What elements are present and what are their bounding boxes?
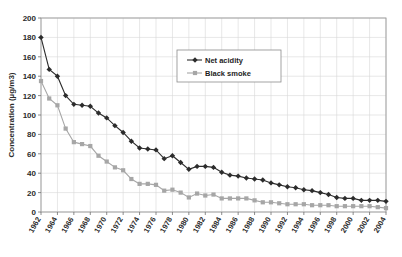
data-point xyxy=(220,196,224,200)
data-point xyxy=(179,191,183,195)
y-tick-label: 200 xyxy=(23,14,37,23)
data-point xyxy=(39,79,43,83)
data-point xyxy=(285,184,290,189)
legend-marker xyxy=(193,71,197,75)
data-point xyxy=(105,159,109,163)
data-point xyxy=(326,203,330,207)
data-point xyxy=(302,202,306,206)
y-tick-label: 180 xyxy=(23,33,37,42)
data-point xyxy=(146,182,150,186)
data-point xyxy=(96,154,100,158)
data-point xyxy=(384,206,388,210)
data-point xyxy=(268,180,273,185)
data-point xyxy=(162,189,166,193)
data-point xyxy=(343,204,347,208)
data-point xyxy=(235,173,240,178)
x-tick-label: 1984 xyxy=(207,215,224,235)
data-point xyxy=(211,192,215,196)
data-point xyxy=(203,164,208,169)
y-tick-label: 140 xyxy=(23,72,37,81)
x-tick-label: 1996 xyxy=(306,216,322,235)
data-point xyxy=(367,198,372,203)
x-tick-label: 2004 xyxy=(372,215,389,235)
legend: Net acidityBlack smoke xyxy=(177,50,281,82)
data-point xyxy=(310,203,314,207)
y-tick-label: 120 xyxy=(23,92,37,101)
gridlines xyxy=(41,18,386,212)
data-point xyxy=(38,35,43,40)
x-tick-label: 1974 xyxy=(125,215,142,235)
x-tick-label: 1970 xyxy=(92,216,108,235)
data-point xyxy=(137,182,141,186)
y-axis-ticks: 020406080100120140160180200 xyxy=(23,14,41,217)
line-chart: 0204060801001201401601802001962196419661… xyxy=(0,0,402,257)
x-tick-label: 1976 xyxy=(142,216,158,235)
x-tick-label: 1988 xyxy=(240,215,256,234)
data-point xyxy=(351,204,355,208)
data-point xyxy=(244,196,248,200)
x-tick-label: 1964 xyxy=(43,215,60,235)
x-tick-label: 1998 xyxy=(322,216,338,235)
data-point xyxy=(252,176,257,181)
data-point xyxy=(318,203,322,207)
data-point xyxy=(80,142,84,146)
y-tick-label: 100 xyxy=(23,111,37,120)
x-tick-label: 1986 xyxy=(224,216,240,235)
data-point xyxy=(342,196,347,201)
data-point xyxy=(55,103,59,107)
y-tick-label: 40 xyxy=(27,169,36,178)
y-tick-label: 60 xyxy=(27,150,36,159)
x-tick-label: 2000 xyxy=(339,216,355,235)
y-tick-label: 20 xyxy=(27,189,36,198)
x-tick-label: 2002 xyxy=(355,216,371,235)
series-line xyxy=(41,81,386,208)
x-tick-label: 1962 xyxy=(27,216,43,235)
data-point xyxy=(219,170,224,175)
data-point xyxy=(376,205,380,209)
data-point xyxy=(72,140,76,144)
data-point xyxy=(350,196,355,201)
data-point xyxy=(285,202,289,206)
data-point xyxy=(359,204,363,208)
data-point xyxy=(145,146,150,151)
data-point xyxy=(294,202,298,206)
data-point xyxy=(277,201,281,205)
data-point xyxy=(79,103,84,108)
data-point xyxy=(195,191,199,195)
y-tick-label: 80 xyxy=(27,130,36,139)
data-point xyxy=(194,164,199,169)
chart-container: 0204060801001201401601802001962196419661… xyxy=(0,0,402,257)
data-point xyxy=(383,199,388,204)
data-point xyxy=(203,193,207,197)
x-tick-label: 1994 xyxy=(289,215,306,235)
data-point xyxy=(244,175,249,180)
x-tick-label: 1990 xyxy=(257,216,273,235)
x-tick-label: 1972 xyxy=(109,216,125,235)
data-point xyxy=(129,177,133,181)
data-point xyxy=(293,185,298,190)
data-point xyxy=(375,198,380,203)
legend-label: Black smoke xyxy=(205,69,251,78)
data-point xyxy=(170,188,174,192)
data-point xyxy=(64,126,68,130)
legend-label: Net acidity xyxy=(205,56,244,65)
data-point xyxy=(187,195,191,199)
data-point xyxy=(121,168,125,172)
data-point xyxy=(301,187,306,192)
data-point xyxy=(154,183,158,187)
y-axis-title: Concentration (µg/m3) xyxy=(7,72,16,157)
x-tick-label: 1978 xyxy=(158,216,174,235)
x-tick-label: 1966 xyxy=(59,216,75,235)
x-axis-ticks: 1962196419661968197019721974197619781980… xyxy=(27,212,389,234)
data-point xyxy=(277,182,282,187)
data-point xyxy=(113,165,117,169)
x-tick-label: 1992 xyxy=(273,216,289,235)
data-point xyxy=(47,96,51,100)
data-point xyxy=(367,204,371,208)
y-tick-label: 160 xyxy=(23,53,37,62)
data-point xyxy=(228,196,232,200)
data-point xyxy=(269,200,273,204)
data-point xyxy=(334,195,339,200)
data-point xyxy=(359,198,364,203)
data-point xyxy=(252,198,256,202)
